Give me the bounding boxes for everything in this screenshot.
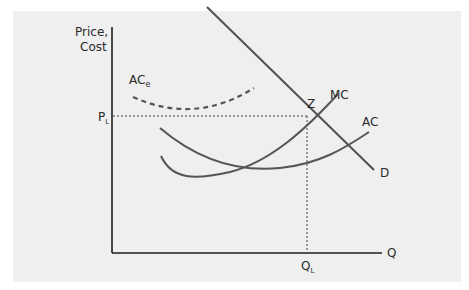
x-axis-label: Q — [387, 246, 396, 260]
ace-curve — [133, 88, 254, 109]
z-label: Z — [307, 97, 315, 111]
ac-label: AC — [362, 115, 378, 129]
y-axis-label-line1: Price, — [75, 25, 108, 39]
pl-label: PL — [98, 110, 109, 126]
d-label: D — [380, 166, 389, 180]
cost-curve-chart: Price, Cost ACe PL Z MC AC D QL Q — [0, 0, 469, 290]
y-axis-label-line2: Cost — [80, 40, 107, 54]
ace-label: ACe — [129, 73, 150, 89]
mc-label: MC — [330, 88, 349, 102]
ql-label: QL — [301, 259, 314, 275]
